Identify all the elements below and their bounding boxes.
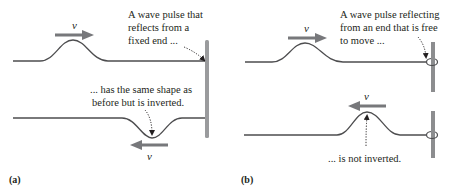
panel-label-b: (b)	[241, 174, 253, 186]
caption-bottom-a: ... has the same shape as before but is …	[90, 84, 195, 108]
fixed-wall	[205, 40, 209, 138]
velocity-label: v	[147, 150, 152, 162]
velocity-arrow-left-icon	[348, 101, 386, 111]
caption-top-b: A wave pulse reflecting from an end that…	[340, 9, 442, 46]
velocity-label: v	[364, 90, 369, 102]
string-bottom-b	[244, 112, 426, 135]
caption-top-a: A wave pulse that reflects from a fixed …	[128, 9, 206, 46]
panel-b: v A wave pulse reflecting from an end th…	[241, 9, 442, 186]
velocity-arrow-right-icon	[55, 30, 94, 40]
wave-reflection-figure: v A wave pulse that reflects from a fixe…	[0, 0, 452, 194]
velocity-label: v	[72, 19, 77, 31]
dotted-pointer-icon	[418, 37, 426, 57]
string-top-b	[245, 43, 426, 62]
free-end-post-bottom	[431, 111, 435, 158]
free-end-post-top	[431, 42, 435, 92]
string-bottom-a	[13, 118, 205, 138]
velocity-arrow-left-icon	[130, 140, 168, 150]
panel-a: v A wave pulse that reflects from a fixe…	[9, 9, 209, 186]
dotted-pointer-icon	[366, 116, 367, 146]
dotted-pointer-icon	[145, 110, 152, 134]
velocity-label: v	[304, 22, 309, 34]
caption-bottom-b: ... is not inverted.	[328, 153, 401, 164]
velocity-arrow-right-icon	[288, 33, 327, 43]
dotted-pointer-icon	[184, 47, 204, 60]
panel-label-a: (a)	[9, 174, 21, 186]
